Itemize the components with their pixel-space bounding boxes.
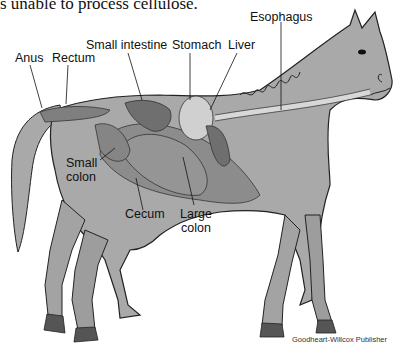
label-stomach: Stomach (172, 38, 221, 52)
hoof (316, 320, 336, 333)
label-small-intestine: Small intestine (86, 38, 167, 52)
hind-leg-right (72, 230, 108, 330)
label-cecum: Cecum (125, 207, 165, 221)
label-anus: Anus (15, 51, 44, 65)
label-small-colon-line1: Small (66, 156, 97, 170)
hoof (74, 327, 98, 342)
hoof (44, 314, 65, 333)
label-rectum: Rectum (52, 51, 95, 65)
label-esophagus: Esophagus (250, 10, 313, 24)
hoof (260, 323, 284, 337)
label-large-colon-line1: Large (180, 207, 212, 221)
label-small-colon-line2: colon (66, 170, 96, 184)
publisher-credit: Goodheart-Willcox Publisher (292, 335, 387, 344)
label-liver: Liver (228, 38, 255, 52)
label-large-colon-line2: colon (181, 221, 211, 235)
eye (358, 50, 366, 55)
front-leg-left (262, 215, 300, 326)
